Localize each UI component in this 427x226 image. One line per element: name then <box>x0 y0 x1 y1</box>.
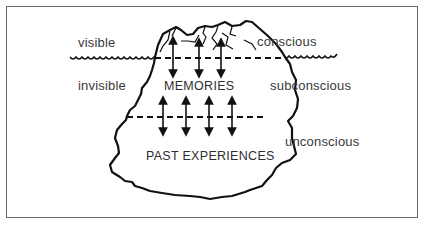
water-line-left <box>70 57 156 59</box>
label-memories: MEMORIES <box>164 80 234 93</box>
label-past-experiences: PAST EXPERIENCES <box>146 150 275 163</box>
label-subconscious: subconscious <box>270 79 351 92</box>
label-visible: visible <box>78 36 116 49</box>
iceberg-diagram <box>0 0 427 226</box>
label-invisible: invisible <box>78 79 126 92</box>
water-line-right <box>283 54 337 58</box>
label-unconscious: unconscious <box>285 135 359 148</box>
label-conscious: conscious <box>257 35 317 48</box>
